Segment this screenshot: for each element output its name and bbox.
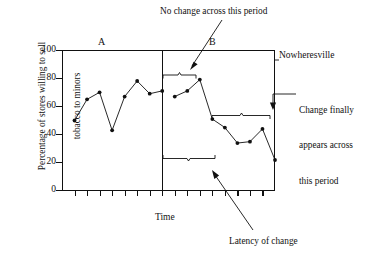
annotation-change-line3: this period: [299, 176, 354, 188]
annotation-change-appears: Change finally appears across this perio…: [299, 81, 354, 212]
phase-label-a: A: [98, 36, 105, 47]
annotation-change-line2: appears across: [299, 140, 354, 152]
change-arrow-head: [270, 103, 276, 110]
condition-label: Nowheresville: [279, 50, 334, 61]
latency-bracket: [163, 155, 215, 161]
phase-label-b: B: [209, 36, 216, 47]
latency-arrow-head: [212, 170, 219, 179]
annotation-no-change: No change across this period: [160, 6, 267, 16]
latency-arrow-shaft: [215, 175, 253, 230]
no-change-bracket: [163, 73, 196, 79]
change-bracket: [212, 113, 270, 119]
chart-figure: 100 80 60 40 20 0 Percentage of stores w…: [0, 0, 377, 257]
annotation-latency: Latency of change: [229, 236, 298, 246]
annotation-change-line1: Change finally: [299, 105, 354, 117]
no-change-arrow-shaft: [192, 20, 222, 66]
x-axis-title: Time: [155, 212, 175, 223]
no-change-arrow-head: [190, 62, 198, 70]
